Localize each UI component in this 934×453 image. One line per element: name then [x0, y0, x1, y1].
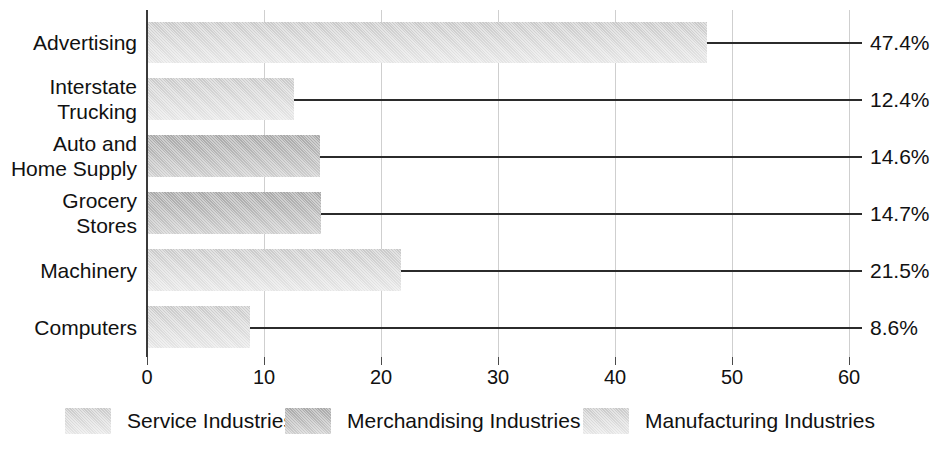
legend-item-manufacturing-industries[interactable]: Manufacturing Industries — [583, 404, 875, 438]
tick-mark-10 — [264, 357, 265, 365]
tick-mark-20 — [381, 357, 382, 365]
leader-line-auto-and-home-supply — [320, 156, 862, 158]
bar-fill — [148, 135, 320, 177]
bar-fill — [148, 78, 294, 120]
bar-fill — [148, 192, 321, 234]
plot-area: 47.4% 12.4% 14.6% 14.7% 21.5% 8.6% Adver… — [0, 0, 934, 380]
legend-swatch-icon — [285, 408, 331, 434]
value-label-auto-and-home-supply: 14.6% — [870, 145, 930, 168]
tick-label-30: 30 — [468, 366, 528, 388]
category-label-grocery-stores: Grocery Stores — [62, 188, 137, 238]
bar-interstate-trucking[interactable] — [148, 78, 294, 120]
bar-fill — [148, 249, 401, 291]
category-label-computers: Computers — [34, 315, 137, 340]
value-label-advertising: 47.4% — [870, 31, 930, 54]
category-label-auto-and-home-supply: Auto and Home Supply — [11, 131, 137, 181]
tick-label-20: 20 — [351, 366, 411, 388]
leader-line-grocery-stores — [321, 213, 862, 215]
tick-label-60: 60 — [819, 366, 879, 388]
gridline-50 — [732, 10, 733, 357]
bar-advertising[interactable] — [148, 22, 707, 63]
bar-auto-and-home-supply[interactable] — [148, 135, 320, 177]
tick-label-0: 0 — [117, 366, 177, 388]
category-label-machinery: Machinery — [40, 258, 137, 283]
tick-mark-0 — [147, 357, 148, 365]
bar-computers[interactable] — [148, 306, 250, 348]
tick-mark-60 — [849, 357, 850, 365]
value-label-computers: 8.6% — [870, 316, 918, 339]
tick-label-40: 40 — [585, 366, 645, 388]
value-label-machinery: 21.5% — [870, 259, 930, 282]
legend-label: Merchandising Industries — [347, 409, 580, 433]
bar-fill — [148, 306, 250, 348]
bar-fill — [148, 22, 707, 63]
chart-legend: Service Industries Merchandising Industr… — [0, 404, 934, 444]
legend-label: Manufacturing Industries — [645, 409, 875, 433]
legend-swatch-icon — [583, 408, 629, 434]
tick-mark-50 — [732, 357, 733, 365]
value-label-grocery-stores: 14.7% — [870, 202, 930, 225]
leader-line-interstate-trucking — [294, 99, 862, 101]
legend-swatch-icon — [65, 408, 111, 434]
legend-item-merchandising-industries[interactable]: Merchandising Industries — [285, 404, 580, 438]
category-label-interstate-trucking: Interstate Trucking — [49, 74, 137, 124]
gridline-60 — [849, 10, 850, 357]
leader-line-advertising — [707, 42, 862, 44]
bar-grocery-stores[interactable] — [148, 192, 321, 234]
bar-chart: 47.4% 12.4% 14.6% 14.7% 21.5% 8.6% Adver… — [0, 0, 934, 453]
leader-line-computers — [250, 327, 862, 329]
leader-line-machinery — [401, 270, 862, 272]
category-label-advertising: Advertising — [33, 30, 137, 55]
legend-label: Service Industries — [127, 409, 294, 433]
tick-label-10: 10 — [234, 366, 294, 388]
legend-item-service-industries[interactable]: Service Industries — [65, 404, 294, 438]
bar-machinery[interactable] — [148, 249, 401, 291]
tick-mark-30 — [498, 357, 499, 365]
value-label-interstate-trucking: 12.4% — [870, 88, 930, 111]
tick-mark-40 — [615, 357, 616, 365]
tick-label-50: 50 — [702, 366, 762, 388]
